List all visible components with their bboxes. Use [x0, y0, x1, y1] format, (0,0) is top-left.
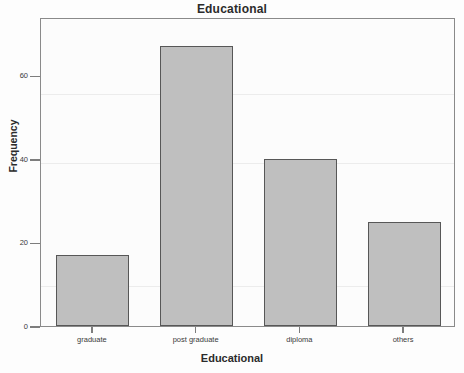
x-tick-label: post graduate	[136, 335, 256, 344]
x-tick-mark	[402, 327, 403, 333]
bar-post-graduate[interactable]	[160, 46, 233, 326]
y-tick-label: 40	[0, 155, 28, 164]
y-tick-mark	[30, 159, 40, 160]
bar-graduate[interactable]	[56, 255, 129, 326]
y-axis-title: Frequency	[7, 101, 19, 191]
x-tick-label: graduate	[32, 335, 152, 344]
x-tick-label: diploma	[239, 335, 359, 344]
y-tick-mark	[30, 243, 40, 244]
x-tick-mark	[91, 327, 92, 333]
wash-line	[41, 94, 454, 95]
plot-area	[40, 18, 455, 327]
y-tick-label: 20	[0, 238, 28, 247]
bar-diploma[interactable]	[264, 159, 337, 326]
x-tick-mark	[195, 327, 196, 333]
plot-inner	[41, 19, 454, 326]
x-tick-label: others	[343, 335, 463, 344]
chart-title: Educational	[0, 2, 464, 16]
bar-others[interactable]	[368, 222, 441, 326]
bar-chart-figure: Educational Frequency 0204060 graduatepo…	[0, 0, 464, 373]
wash-line	[41, 163, 454, 164]
x-axis-title: Educational	[0, 352, 464, 364]
y-tick-label: 0	[0, 322, 28, 331]
y-tick-label: 60	[0, 71, 28, 80]
y-tick-mark	[30, 326, 40, 327]
y-tick-mark	[30, 76, 40, 77]
x-tick-mark	[299, 327, 300, 333]
